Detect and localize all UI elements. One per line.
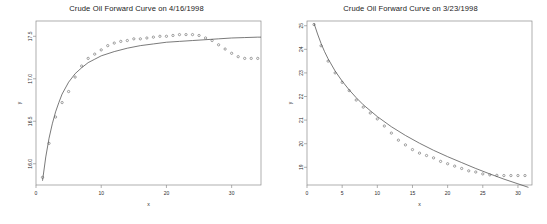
chart-panel-left: Crude Oil Forward Curve on 4/16/1998 010… [0,0,273,224]
svg-text:x: x [418,201,421,207]
svg-text:20: 20 [445,190,451,196]
svg-text:5: 5 [341,190,344,196]
svg-text:30: 30 [515,190,521,196]
svg-text:25: 25 [480,190,486,196]
figure-container: Crude Oil Forward Curve on 4/16/1998 010… [0,0,547,224]
svg-text:15: 15 [410,190,416,196]
svg-text:17.5: 17.5 [27,31,33,41]
svg-text:0: 0 [35,190,38,196]
svg-text:20: 20 [164,190,170,196]
plot-left: 010203016.016.517.017.5xy [0,0,273,224]
svg-text:23: 23 [298,70,304,76]
plot-right: 05101520253019202122232425xy [274,0,547,224]
svg-text:25: 25 [298,23,304,29]
svg-text:20: 20 [298,141,304,147]
svg-text:y: y [16,101,22,104]
svg-text:y: y [287,101,293,104]
svg-text:x: x [147,201,150,207]
svg-text:16.5: 16.5 [27,116,33,126]
svg-text:16.0: 16.0 [27,159,33,169]
svg-text:21: 21 [298,117,304,123]
svg-text:24: 24 [298,46,304,52]
chart-panel-right: Crude Oil Forward Curve on 3/23/1998 051… [274,0,547,224]
svg-text:0: 0 [306,190,309,196]
svg-text:10: 10 [375,190,381,196]
svg-text:17.0: 17.0 [27,74,33,84]
svg-text:30: 30 [229,190,235,196]
svg-text:10: 10 [98,190,104,196]
svg-text:19: 19 [298,164,304,170]
svg-text:22: 22 [298,94,304,100]
